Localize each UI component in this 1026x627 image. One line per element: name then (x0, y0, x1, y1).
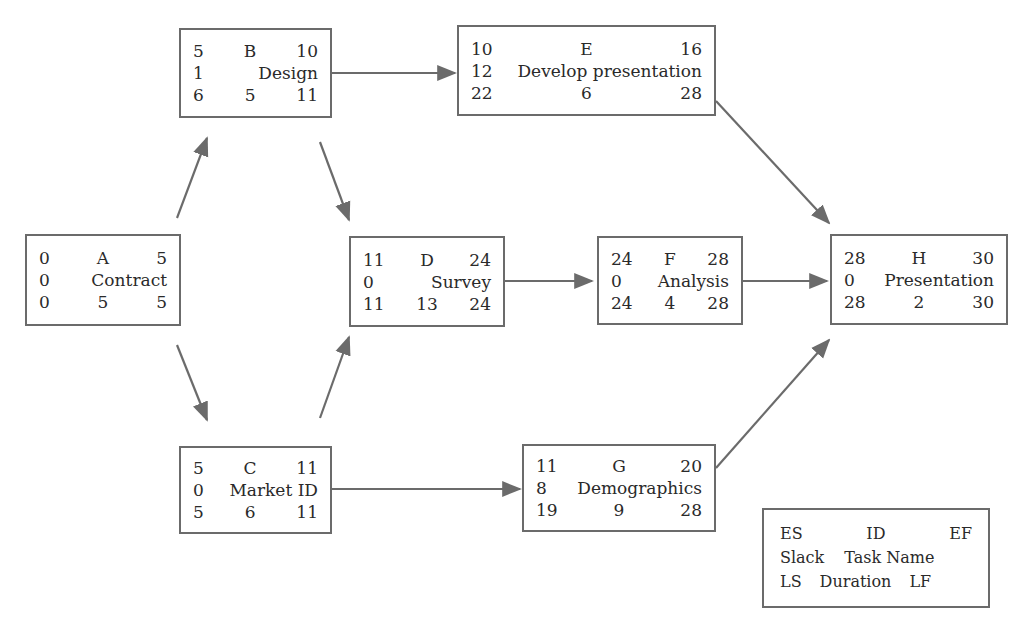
early-finish: 10 (296, 40, 318, 62)
task-name: Demographics (577, 477, 702, 499)
duration: 5 (98, 291, 109, 313)
slack: 0 (611, 270, 622, 292)
early-start: 10 (471, 38, 493, 60)
late-start: 6 (193, 84, 204, 106)
early-start: 5 (193, 40, 204, 62)
late-start: 5 (193, 501, 204, 523)
task-id: G (612, 455, 626, 477)
slack: 1 (193, 62, 204, 84)
early-start: 11 (536, 455, 558, 477)
early-finish: 24 (469, 249, 491, 271)
edge-b-d (320, 142, 349, 220)
early-finish: 28 (707, 248, 729, 270)
early-finish: 30 (972, 247, 994, 269)
task-id: A (97, 247, 109, 269)
early-start: 5 (193, 457, 204, 479)
late-finish: 30 (972, 291, 994, 313)
duration: 4 (665, 292, 676, 314)
early-start: 28 (844, 247, 866, 269)
late-start: 24 (611, 292, 633, 314)
legend-ef: EF (949, 522, 972, 546)
task-id: C (244, 457, 257, 479)
edge-c-d (320, 337, 349, 418)
late-finish: 11 (296, 501, 318, 523)
node-h-presentation: 28H30 0Presentation 28230 (830, 234, 1008, 325)
duration: 6 (245, 501, 256, 523)
legend-id: ID (866, 522, 885, 546)
early-finish: 16 (680, 38, 702, 60)
edge-a-c (177, 345, 207, 420)
node-g-demographics: 11G20 8Demographics 19928 (522, 444, 716, 532)
legend-lf: LF (909, 570, 931, 594)
task-name: Analysis (658, 270, 729, 292)
node-e-develop-presentation: 10E16 12Develop presentation 22628 (457, 25, 716, 116)
task-name: Market ID (229, 479, 318, 501)
legend-es: ES (780, 522, 803, 546)
late-finish: 28 (680, 499, 702, 521)
legend-slack: Slack (780, 546, 824, 570)
late-finish: 28 (707, 292, 729, 314)
late-start: 0 (39, 291, 50, 313)
task-id: H (912, 247, 927, 269)
early-start: 11 (363, 249, 385, 271)
edge-e-h (716, 101, 829, 223)
slack: 0 (39, 269, 50, 291)
task-name: Design (258, 62, 318, 84)
early-finish: 20 (680, 455, 702, 477)
task-id: D (420, 249, 434, 271)
late-finish: 5 (156, 291, 167, 313)
task-name: Develop presentation (517, 60, 702, 82)
duration: 6 (581, 82, 592, 104)
late-finish: 24 (469, 293, 491, 315)
early-finish: 11 (296, 457, 318, 479)
early-start: 0 (39, 247, 50, 269)
duration: 9 (614, 499, 625, 521)
task-name: Contract (91, 269, 167, 291)
legend-task-name: Task Name (844, 546, 934, 570)
late-start: 28 (844, 291, 866, 313)
early-start: 24 (611, 248, 633, 270)
task-name: Survey (431, 271, 491, 293)
node-a-contract: 0A5 0Contract 055 (25, 234, 181, 326)
late-start: 11 (363, 293, 385, 315)
node-f-analysis: 24F28 0Analysis 24428 (597, 236, 743, 325)
task-id: B (244, 40, 257, 62)
late-start: 22 (471, 82, 493, 104)
duration: 13 (416, 293, 438, 315)
duration: 2 (914, 291, 925, 313)
slack: 0 (193, 479, 204, 501)
legend-ls: LS (780, 570, 802, 594)
late-finish: 11 (296, 84, 318, 106)
task-id: F (664, 248, 676, 270)
task-name: Presentation (884, 269, 994, 291)
duration: 5 (245, 84, 256, 106)
late-finish: 28 (680, 82, 702, 104)
node-c-market-id: 5C11 0Market ID 5611 (179, 446, 332, 534)
slack: 0 (363, 271, 374, 293)
slack: 8 (536, 477, 547, 499)
slack: 12 (471, 60, 493, 82)
task-id: E (580, 38, 592, 60)
node-b-design: 5B10 1Design 6511 (179, 28, 332, 118)
legend-duration: Duration (820, 570, 892, 594)
late-start: 19 (536, 499, 558, 521)
legend-box: ESIDEF SlackTask Name LSDurationLF (762, 508, 990, 608)
slack: 0 (844, 269, 855, 291)
edge-g-h (716, 340, 829, 468)
node-d-survey: 11D24 0Survey 111324 (349, 236, 505, 327)
early-finish: 5 (156, 247, 167, 269)
edge-a-b (177, 138, 207, 218)
